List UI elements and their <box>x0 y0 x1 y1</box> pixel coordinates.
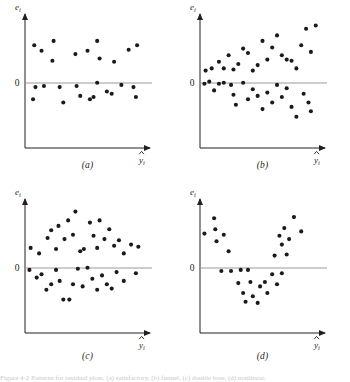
data-point <box>273 254 277 258</box>
data-point <box>112 60 116 64</box>
data-point <box>134 95 138 99</box>
data-point <box>54 268 58 272</box>
data-point <box>32 43 36 47</box>
data-point <box>61 100 65 104</box>
data-point <box>127 48 131 52</box>
data-point <box>54 247 58 251</box>
panel-a-plot: eiyi0 <box>0 0 175 172</box>
y-axis-label: ei <box>15 187 21 198</box>
data-point <box>110 92 114 96</box>
zero-tick-label: 0 <box>190 78 195 88</box>
data-point <box>212 216 216 220</box>
data-point <box>78 94 82 98</box>
data-point <box>71 233 75 237</box>
data-point <box>56 224 60 228</box>
data-point <box>134 271 138 275</box>
panel-d: eiyi0 (d) <box>175 185 350 376</box>
data-point <box>265 91 269 95</box>
data-point <box>246 97 250 101</box>
x-axis-label: yi <box>313 340 320 351</box>
panel-b-label: (b) <box>175 160 350 170</box>
data-point <box>52 39 56 43</box>
data-point <box>251 87 255 91</box>
data-point <box>98 218 102 222</box>
data-point <box>107 227 111 231</box>
zero-tick-label: 0 <box>15 263 20 273</box>
data-point <box>73 52 77 56</box>
data-point <box>71 282 75 286</box>
panel-d-plot: eiyi0 <box>175 185 350 357</box>
data-point <box>76 267 80 271</box>
data-point <box>256 94 260 98</box>
data-point <box>260 39 264 43</box>
data-point <box>95 288 99 292</box>
scatter-points <box>31 39 139 105</box>
data-point <box>251 69 255 73</box>
data-point <box>49 228 53 232</box>
data-point <box>100 273 104 277</box>
data-point <box>258 284 262 288</box>
data-point <box>50 59 54 63</box>
panel-c: eiyi0 (c) <box>0 185 175 376</box>
data-point <box>265 58 269 62</box>
data-point <box>280 95 284 99</box>
data-point <box>39 272 43 276</box>
data-point <box>219 269 223 273</box>
data-point <box>136 245 140 249</box>
data-point <box>265 291 269 295</box>
y-axis-label: ei <box>190 2 196 13</box>
data-point <box>95 246 99 250</box>
panel-c-label: (c) <box>0 351 175 361</box>
data-point <box>122 251 126 255</box>
data-point <box>222 233 226 237</box>
data-point <box>241 47 245 51</box>
data-point <box>294 66 298 70</box>
data-point <box>204 69 208 73</box>
data-point <box>42 84 46 88</box>
data-point <box>236 62 240 66</box>
data-point <box>275 33 279 37</box>
panel-d-label: (d) <box>175 351 350 361</box>
data-point <box>112 244 116 248</box>
data-point <box>67 298 71 302</box>
scatter-points <box>202 23 317 118</box>
data-point <box>222 66 226 70</box>
panel-c-plot: eiyi0 <box>0 185 175 357</box>
data-point <box>285 86 289 90</box>
data-point <box>241 81 245 85</box>
data-point <box>95 39 99 43</box>
data-point <box>285 252 289 256</box>
data-point <box>309 50 313 54</box>
data-point <box>73 210 77 214</box>
data-point <box>231 67 235 71</box>
data-point <box>289 59 293 63</box>
data-point <box>110 287 114 291</box>
data-point <box>129 243 133 247</box>
data-point <box>58 279 62 283</box>
data-point <box>92 95 96 99</box>
data-point <box>102 237 106 241</box>
data-point <box>78 249 82 253</box>
data-point <box>304 27 308 31</box>
data-point <box>234 103 238 107</box>
data-point <box>210 66 214 70</box>
data-point <box>29 246 33 250</box>
data-point <box>37 251 41 255</box>
data-point <box>117 238 121 242</box>
data-point <box>85 266 89 270</box>
data-point <box>231 93 235 97</box>
data-point <box>46 236 50 240</box>
data-point <box>114 270 118 274</box>
data-point <box>85 49 89 53</box>
data-point <box>263 280 267 284</box>
data-point <box>217 60 221 64</box>
data-point <box>88 97 92 101</box>
data-point <box>122 279 126 283</box>
data-point <box>256 63 260 67</box>
data-point <box>98 56 102 60</box>
data-point <box>95 81 99 85</box>
data-point <box>282 226 286 230</box>
data-point <box>306 100 310 104</box>
residual-plots-figure: eiyi0 (a) eiyi0 (b) eiyi0 (c) eiyi0 (d) … <box>0 0 350 382</box>
data-point <box>277 234 281 238</box>
